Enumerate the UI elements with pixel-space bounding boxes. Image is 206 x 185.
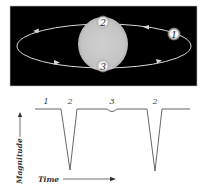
planet-label: 2 [99, 18, 106, 28]
planet-2: 2 [97, 16, 110, 29]
light-curve: 1 2 3 2 Magnitude Time [15, 97, 190, 185]
planet-label: 1 [171, 30, 177, 40]
light-curve-line [35, 109, 190, 171]
y-axis-arrow-icon [18, 112, 22, 117]
phase-label: 2 [66, 97, 72, 106]
planet-3: 3 [97, 60, 110, 73]
planet-label: 3 [100, 62, 106, 72]
planet-1: 1 [168, 28, 181, 41]
y-axis-label: Magnitude [15, 138, 24, 185]
transit-diagram: 1 2 3 1 2 3 2 Magnitude Time [0, 0, 206, 185]
orbit-panel: 1 2 3 [10, 6, 197, 86]
x-axis-label: Time [38, 175, 59, 184]
phase-label: 2 [151, 97, 157, 106]
phase-label: 3 [109, 97, 114, 106]
x-axis-arrow-icon [110, 177, 116, 181]
phase-label: 1 [43, 97, 48, 106]
